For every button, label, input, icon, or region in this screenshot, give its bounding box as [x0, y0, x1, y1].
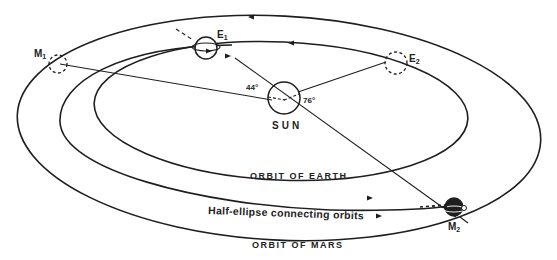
sun-icon: [268, 82, 300, 114]
angle-44-label: 44°: [246, 83, 258, 92]
line-e1-m2: [235, 58, 456, 217]
e1-label: E1: [217, 29, 228, 41]
arrow-icon: [376, 214, 382, 219]
arrow-icon: [225, 54, 231, 59]
line-m1-sun: [60, 64, 272, 100]
orbit-of-earth-label: ORBIT OF EARTH: [250, 171, 348, 181]
e2-label: E2: [409, 53, 420, 65]
angle-76-label: 76°: [303, 96, 315, 105]
orbit-direction-arrows: [225, 15, 382, 219]
mars-m2-icon: [441, 198, 467, 216]
transfer-half-ellipse: [60, 45, 450, 210]
m2-label: M2: [448, 221, 460, 233]
sun-label: SUN: [272, 120, 302, 131]
hohmann-transfer-diagram: SUN 44° 76° E1 E2 M1 M2 ORBIT OF EARTH H…: [0, 0, 557, 260]
arrow-icon: [367, 196, 373, 201]
m1-label: M1: [34, 48, 46, 60]
arrow-icon: [288, 41, 294, 46]
earth-e1-icon: [192, 37, 220, 59]
orbit-of-mars-label: ORBIT OF MARS: [252, 240, 344, 250]
transfer-label: Half-ellipse connecting orbits: [208, 204, 364, 221]
line-e2-sun: [298, 62, 386, 92]
line-m2-extension: [460, 217, 468, 223]
line-e1-extension-dash: [176, 29, 193, 40]
